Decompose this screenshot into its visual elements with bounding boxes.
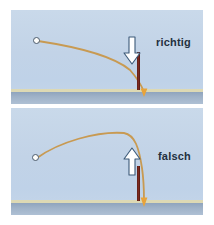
panel-label-richtig: richtig <box>156 36 191 48</box>
ball-start-falsch <box>32 154 39 161</box>
ground-band <box>11 92 203 104</box>
ground-band <box>11 203 203 215</box>
panel-richtig: richtig <box>11 10 203 104</box>
ball-start-richtig <box>33 37 40 44</box>
arrow-down-icon <box>123 36 141 66</box>
panel-label-falsch: falsch <box>158 150 191 162</box>
panel-falsch: falsch <box>11 108 203 215</box>
arrow-up-icon <box>123 146 141 176</box>
physics-trajectory-figure: richtig falsch <box>0 0 214 225</box>
